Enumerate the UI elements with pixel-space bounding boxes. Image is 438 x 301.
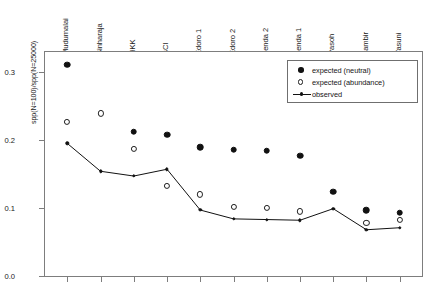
- legend-item-expected-abundance: expected (abundance): [292, 76, 413, 88]
- legend-item-observed: observed: [292, 88, 413, 100]
- marker-expected-neutral: [230, 146, 237, 153]
- legend-label-expected-neutral: expected (neutral): [312, 66, 371, 75]
- legend: expected (neutral) expected (abundance) …: [287, 60, 418, 103]
- x-tick-mark: [234, 277, 235, 282]
- legend-item-expected-neutral: expected (neutral): [292, 64, 413, 76]
- x-tick-mark: [200, 277, 201, 282]
- y-tick-label: 0.1: [0, 204, 15, 213]
- legend-label-observed: observed: [312, 90, 342, 99]
- x-tick-mark: [366, 277, 367, 282]
- x-tick-mark: [67, 277, 68, 282]
- x-tick-mark: [134, 277, 135, 282]
- y-tick-label: 0.3: [0, 68, 15, 77]
- marker-expected-neutral: [330, 188, 337, 195]
- marker-expected-neutral: [64, 61, 71, 68]
- marker-expected-neutral: [164, 131, 171, 138]
- open-circle-icon: [292, 76, 312, 88]
- x-tick-mark: [167, 277, 168, 282]
- x-tick-mark: [400, 277, 401, 282]
- y-axis-title: spp(N=100)/spp(N=25000): [29, 0, 38, 168]
- y-tick-label: 0.2: [0, 136, 15, 145]
- legend-label-expected-abundance: expected (abundance): [312, 78, 385, 87]
- line-marker-icon: [292, 88, 312, 100]
- marker-expected-neutral: [197, 144, 204, 151]
- y-tick-label: 0.0: [0, 272, 15, 281]
- marker-expected-neutral: [130, 129, 137, 136]
- x-tick-mark: [101, 277, 102, 282]
- chart-figure: spp(N=100)/spp(N=25000) 0.00.10.20.3 Mud…: [0, 0, 438, 301]
- x-category-label: Mudumalai: [61, 18, 70, 55]
- marker-expected-neutral: [297, 152, 304, 159]
- marker-expected-neutral: [263, 148, 270, 155]
- x-tick-mark: [267, 277, 268, 282]
- marker-expected-neutral: [396, 209, 403, 216]
- filled-circle-icon: [292, 64, 312, 76]
- x-tick-mark: [300, 277, 301, 282]
- x-tick-mark: [333, 277, 334, 282]
- marker-expected-neutral: [363, 207, 370, 214]
